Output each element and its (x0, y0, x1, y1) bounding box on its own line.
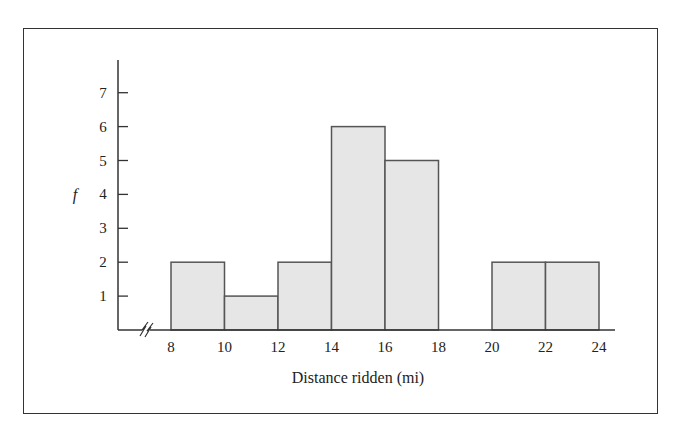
x-tick-label: 22 (538, 339, 553, 355)
x-tick-label: 14 (324, 339, 340, 355)
histogram-bar (225, 296, 279, 330)
y-tick-label: 6 (99, 119, 107, 135)
x-axis-label: Distance ridden (mi) (292, 369, 424, 387)
histogram-bar (385, 161, 439, 331)
y-tick-label: 5 (99, 153, 107, 169)
x-tick-label: 8 (167, 339, 175, 355)
x-tick-label: 24 (592, 339, 608, 355)
histogram-bar (171, 262, 225, 330)
x-tick-label: 10 (217, 339, 232, 355)
y-tick-label: 1 (99, 288, 107, 304)
x-tick-label: 16 (378, 339, 394, 355)
histogram-chart: 1234567 81012141618202224 f Distance rid… (0, 0, 680, 431)
histogram-bar (546, 262, 600, 330)
y-axis-ticks: 1234567 (99, 85, 128, 304)
y-tick-label: 4 (99, 186, 107, 202)
x-tick-label: 12 (271, 339, 286, 355)
y-tick-label: 2 (99, 254, 107, 270)
x-tick-label: 20 (485, 339, 500, 355)
y-tick-label: 3 (99, 220, 107, 236)
histogram-bar (278, 262, 332, 330)
histogram-bar (332, 127, 386, 330)
y-axis-label: f (73, 186, 80, 204)
x-tick-label: 18 (431, 339, 446, 355)
histogram-bar (492, 262, 546, 330)
y-tick-label: 7 (99, 85, 107, 101)
x-axis-ticks: 81012141618202224 (167, 339, 607, 355)
histogram-bars (171, 127, 599, 330)
